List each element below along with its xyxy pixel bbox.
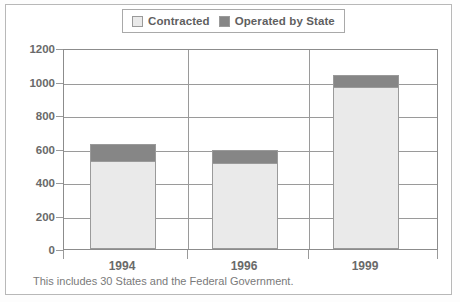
- x-axis: 1994 1996 1999: [63, 250, 438, 274]
- category-separator: [188, 50, 189, 249]
- y-axis-labels: 1200 1000 800 600 400 200 0: [13, 49, 55, 250]
- bar-segment-contracted: [334, 88, 398, 248]
- y-axis-tick: [56, 49, 63, 50]
- bar-1996: [212, 150, 278, 249]
- legend-entry-operated-by-state: Operated by State: [219, 15, 335, 27]
- chart-screenshot: Contracted Operated by State 1200 1000 8…: [0, 0, 460, 302]
- y-axis-tick: [56, 150, 63, 151]
- y-axis-label: 600: [36, 144, 55, 156]
- bar-segment-contracted: [91, 162, 155, 248]
- category-separator: [309, 50, 310, 249]
- x-axis-label-1996: 1996: [231, 259, 258, 273]
- y-axis-tick: [56, 250, 63, 251]
- legend-swatch-contracted: [132, 16, 143, 27]
- x-axis-tick: [308, 250, 309, 259]
- y-axis-label: 800: [36, 110, 55, 122]
- chart-legend: Contracted Operated by State: [122, 9, 345, 33]
- bar-segment-operated-by-state: [334, 76, 398, 88]
- plot-area: [63, 49, 438, 250]
- y-axis-tick: [56, 217, 63, 218]
- y-axis-tick: [56, 116, 63, 117]
- bar-segment-contracted: [213, 164, 277, 248]
- x-axis-tick: [437, 250, 438, 259]
- legend-entry-contracted: Contracted: [132, 15, 210, 27]
- legend-swatch-operated-by-state: [219, 16, 230, 27]
- y-axis-label: 1200: [29, 43, 55, 55]
- bar-1994: [90, 144, 156, 249]
- y-axis-tick: [56, 183, 63, 184]
- x-axis-tick: [63, 250, 64, 259]
- legend-label-operated-by-state: Operated by State: [235, 15, 335, 27]
- legend-label-contracted: Contracted: [148, 15, 210, 27]
- bar-1999: [333, 75, 399, 249]
- chart-footnote: This includes 30 States and the Federal …: [33, 275, 293, 287]
- y-axis-label: 200: [36, 211, 55, 223]
- bar-segment-operated-by-state: [213, 151, 277, 164]
- x-axis-label-1999: 1999: [352, 259, 379, 273]
- y-axis-label: 0: [49, 244, 55, 256]
- x-axis-label-1994: 1994: [109, 259, 136, 273]
- y-axis-label: 400: [36, 177, 55, 189]
- y-axis-tick: [56, 83, 63, 84]
- y-axis-label: 1000: [29, 77, 55, 89]
- x-axis-tick: [187, 250, 188, 259]
- bar-segment-operated-by-state: [91, 145, 155, 162]
